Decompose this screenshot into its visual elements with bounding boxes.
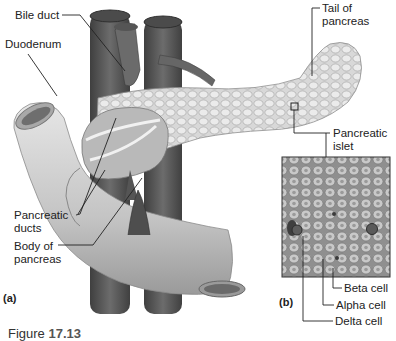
label-duodenum: Duodenum [5,38,61,51]
panel-label-b: (b) [279,296,293,308]
label-alpha-cell: Alpha cell [336,299,386,312]
label-bile-duct: Bile duct [15,9,59,22]
caption-number: 17.13 [48,326,81,341]
label-tail-of-pancreas-line2: pancreas [322,15,369,28]
label-pancreatic-ducts-line1: Pancreatic [14,209,68,222]
label-beta-cell: Beta cell [344,282,388,295]
figure-caption: Figure 17.13 [8,326,81,341]
caption-prefix: Figure [8,326,45,341]
label-pancreatic-islet-line2: islet [333,140,353,153]
label-body-of-pancreas-line2: pancreas [14,253,61,266]
label-pancreatic-ducts-line2: ducts [14,222,42,235]
panel-label-a: (a) [3,292,16,304]
label-tail-of-pancreas-line1: Tail of [322,2,352,15]
label-body-of-pancreas-line1: Body of [14,240,53,253]
label-delta-cell: Delta cell [335,315,382,328]
label-pancreatic-islet-line1: Pancreatic [333,127,387,140]
